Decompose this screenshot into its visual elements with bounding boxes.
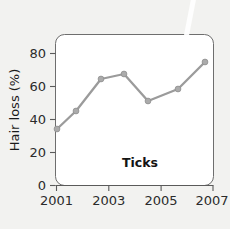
x-tick-label-2003: 2003 bbox=[92, 193, 125, 208]
line-chart: 0 20 40 60 80 2001 2003 2005 2007 Hair l… bbox=[0, 0, 230, 229]
data-point bbox=[121, 71, 127, 77]
data-point bbox=[73, 108, 79, 114]
data-point bbox=[175, 86, 181, 92]
y-tick-label-40: 40 bbox=[29, 112, 46, 127]
y-tick-label-20: 20 bbox=[29, 145, 46, 160]
x-tick-label-2001: 2001 bbox=[40, 193, 73, 208]
plot-annotation-ticks: Ticks bbox=[122, 155, 158, 170]
y-axis-title: Hair loss (%) bbox=[7, 69, 22, 152]
data-point bbox=[202, 59, 208, 65]
data-point bbox=[145, 98, 151, 104]
x-tick-label-2005: 2005 bbox=[145, 193, 178, 208]
y-tick-label-60: 60 bbox=[29, 79, 46, 94]
data-point bbox=[98, 76, 104, 82]
data-point bbox=[54, 126, 60, 132]
chart-figure: 0 20 40 60 80 2001 2003 2005 2007 Hair l… bbox=[0, 0, 230, 229]
y-tick-label-80: 80 bbox=[29, 46, 46, 61]
y-tick-label-0: 0 bbox=[38, 178, 46, 193]
x-tick-label-2007: 2007 bbox=[195, 193, 228, 208]
